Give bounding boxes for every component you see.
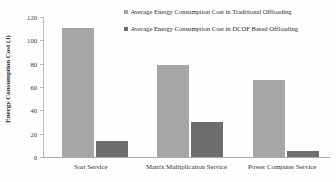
x-axis-category-label: Power Computer Service: [234, 163, 330, 170]
y-axis-tick-label: 120: [11, 14, 37, 21]
bar: [253, 80, 285, 157]
bar-chart: Energy Consumption Cost (J) 020406080100…: [0, 0, 336, 182]
y-axis-tick-label: 40: [11, 107, 37, 114]
bar: [191, 122, 223, 157]
legend-item: Average Energy Consumption Cost in DCOF …: [124, 25, 336, 33]
y-axis-tick-label: 60: [11, 84, 37, 91]
legend-swatch-icon: [124, 27, 128, 31]
legend-item-label: Average Energy Consumption Cost in Tradi…: [131, 8, 292, 16]
y-axis-tick-label: 20: [11, 130, 37, 137]
chart-legend: Average Energy Consumption Cost in Tradi…: [124, 8, 336, 42]
bar: [62, 28, 94, 158]
x-axis-line: [43, 157, 330, 158]
y-axis-tick-label: 0: [11, 154, 37, 161]
bar: [157, 65, 189, 157]
x-axis-category-label: Matrix Multiplication Service: [139, 163, 235, 170]
bar: [96, 141, 128, 157]
y-axis-tick-mark: [40, 157, 43, 158]
y-axis-tick-label: 80: [11, 60, 37, 67]
bar: [287, 151, 319, 157]
y-axis-tick-label: 100: [11, 37, 37, 44]
legend-item: Average Energy Consumption Cost in Tradi…: [124, 8, 336, 16]
legend-item-label: Average Energy Consumption Cost in DCOF …: [131, 25, 299, 33]
x-axis-category-label: Sort Service: [43, 163, 139, 170]
legend-swatch-icon: [124, 10, 128, 14]
